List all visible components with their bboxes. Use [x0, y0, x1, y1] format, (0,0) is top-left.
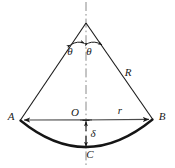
label-sagitta-delta: δ: [90, 127, 96, 139]
label-theta-right: θ: [86, 45, 92, 57]
geometry-diagram: θ θ R A O B C r δ: [0, 0, 175, 168]
figure-canvas: θ θ R A O B C r δ: [0, 0, 175, 168]
label-theta-left: θ: [67, 45, 73, 57]
label-point-a: A: [7, 110, 15, 122]
label-half-chord-r: r: [118, 104, 123, 116]
label-point-c: C: [86, 148, 94, 160]
label-radius-r-capital: R: [124, 66, 132, 78]
label-point-b: B: [159, 110, 166, 122]
label-point-o: O: [71, 106, 79, 118]
